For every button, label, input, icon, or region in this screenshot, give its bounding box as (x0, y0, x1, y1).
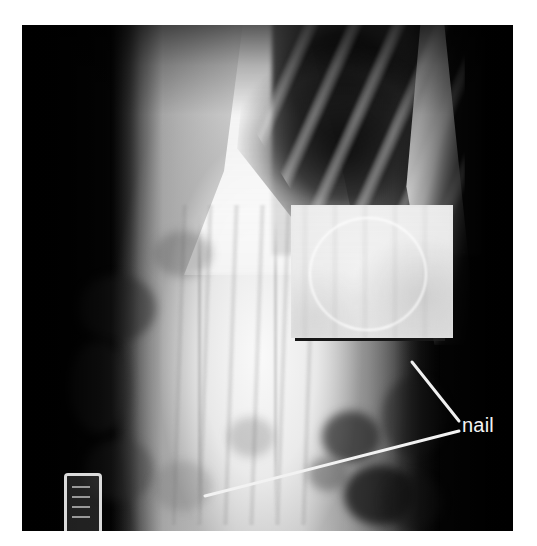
figure-caption (0, 535, 537, 546)
bowel-gas (154, 231, 212, 277)
bowel-gas (228, 417, 274, 457)
magnified-detail-inset (291, 205, 453, 338)
figure-page: nail (0, 0, 537, 546)
film-side-marker (64, 473, 102, 531)
bowel-gas (322, 411, 380, 463)
bowel-gas (308, 457, 348, 491)
spine-right-edge (274, 220, 277, 515)
inset-underbar (295, 338, 445, 341)
nail-label: nail (462, 414, 494, 436)
nail-outline-circle (309, 217, 427, 331)
bowel-gas (152, 461, 212, 511)
top-film-fade (22, 25, 513, 115)
